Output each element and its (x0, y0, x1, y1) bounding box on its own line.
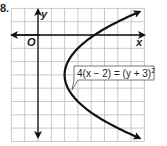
y-axis-label: y (40, 8, 48, 20)
origin-label: O (27, 36, 36, 48)
x-axis-label: x (135, 36, 143, 48)
svg-text:4(x − 2) = (y + 3)2: 4(x − 2) = (y + 3)2 (77, 67, 155, 79)
equation-exponent: 2 (151, 67, 155, 74)
equation-callout: 4(x − 2) = (y + 3)2 (72, 66, 155, 90)
parabola-graph: y x O 4(x − 2) = (y + 3)2 (0, 0, 167, 146)
equation-label: 4(x − 2) = (y + 3) (77, 68, 151, 79)
